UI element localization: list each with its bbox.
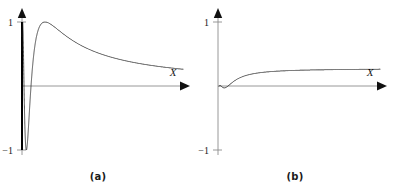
y-tick-label-top-b: 1: [204, 17, 209, 28]
chart-panel-b: 1 −1 X (b): [197, 0, 393, 188]
plot-b: 1 −1 X: [197, 0, 393, 165]
y-axis-arrowhead-b: [214, 8, 222, 18]
y-tick-label-bottom-b: −1: [198, 145, 209, 156]
chart-panel-a: 1 −1 X (a): [0, 0, 196, 188]
y-axis-arrowhead-a: [18, 8, 26, 18]
x-axis-arrowhead-a: [180, 82, 190, 91]
x-axis-label-b: X: [366, 66, 375, 78]
x-axis-arrowhead-b: [377, 82, 387, 91]
panel-caption-a: (a): [0, 171, 196, 182]
chirp-curve-b: [219, 69, 380, 88]
figure-container: 1 −1 X (a) 1 −1 X (b): [0, 0, 393, 188]
y-tick-label-top-a: 1: [8, 17, 13, 28]
panel-caption-b: (b): [197, 171, 393, 182]
y-tick-label-bottom-a: −1: [2, 145, 13, 156]
plot-a: 1 −1 X: [0, 0, 196, 165]
